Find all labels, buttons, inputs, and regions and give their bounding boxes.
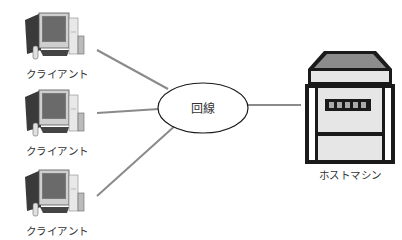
computer-icon [15, 8, 95, 68]
line-client1-network [97, 50, 168, 89]
client-label: クライアント [17, 143, 97, 158]
client-label: クライアント [17, 223, 97, 238]
server-icon [300, 45, 400, 165]
line-client3-network [97, 124, 177, 196]
client-computer-3: クライアント [15, 165, 95, 235]
computer-icon [15, 85, 95, 145]
client-computer-2: クライアント [15, 85, 95, 155]
computer-icon [15, 165, 95, 225]
network-label: 回線 [158, 99, 248, 116]
client-label: クライアント [17, 66, 97, 81]
host-machine: ホストマシン [300, 45, 400, 185]
line-client2-network [97, 109, 159, 113]
client-computer-1: クライアント [15, 8, 95, 78]
host-label: ホストマシン [300, 167, 400, 182]
